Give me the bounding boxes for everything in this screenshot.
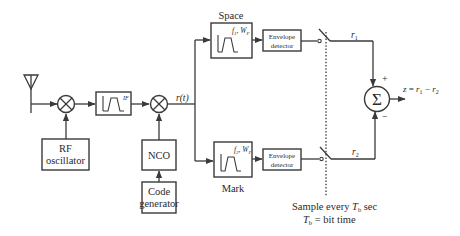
minus-sign: − bbox=[382, 111, 388, 122]
if-filter-block: IF bbox=[96, 92, 131, 115]
r2-label: r2 bbox=[352, 147, 359, 158]
bit-time-note: Tb = bit time bbox=[303, 214, 356, 226]
sigma-icon: Σ bbox=[372, 90, 382, 109]
rf-oscillator-label-1: RF bbox=[59, 143, 72, 154]
space-title: Space bbox=[218, 10, 243, 21]
sampling-switch-upper-icon bbox=[318, 29, 330, 43]
code-generator-label-1: Code bbox=[148, 186, 171, 197]
r1-label: r1 bbox=[351, 30, 358, 41]
env-upper-label-2: detector bbox=[271, 42, 294, 50]
mark-title: Mark bbox=[222, 183, 245, 194]
antenna-icon bbox=[24, 75, 38, 113]
mark-filter-block: f2, WF bbox=[214, 142, 253, 177]
summer-block: Σ bbox=[365, 87, 390, 112]
output-equation: z = r1 − r2 bbox=[402, 84, 439, 95]
code-generator-block: Code generator bbox=[139, 182, 179, 213]
rf-oscillator-label-2: oscillator bbox=[46, 155, 86, 166]
envelope-detector-lower-block: Envelope detector bbox=[263, 149, 301, 170]
env-lower-label-1: Envelope bbox=[269, 152, 295, 160]
sample-note: Sample every Tb sec bbox=[292, 201, 378, 213]
nco-block: NCO bbox=[142, 140, 176, 170]
if-filter-label: IF bbox=[122, 95, 129, 101]
mixer-2-icon bbox=[151, 96, 168, 113]
nco-label: NCO bbox=[148, 150, 171, 161]
rt-label: r(t) bbox=[176, 93, 189, 104]
envelope-detector-upper-block: Envelope detector bbox=[263, 30, 301, 51]
space-filter-block: f1, WF bbox=[211, 23, 252, 58]
code-generator-label-2: generator bbox=[139, 198, 179, 209]
env-lower-label-2: detector bbox=[271, 161, 294, 169]
env-upper-label-1: Envelope bbox=[269, 33, 295, 41]
mixer-1-icon bbox=[58, 96, 75, 113]
rf-oscillator-block: RF oscillator bbox=[42, 139, 89, 170]
plus-sign: + bbox=[382, 73, 388, 84]
